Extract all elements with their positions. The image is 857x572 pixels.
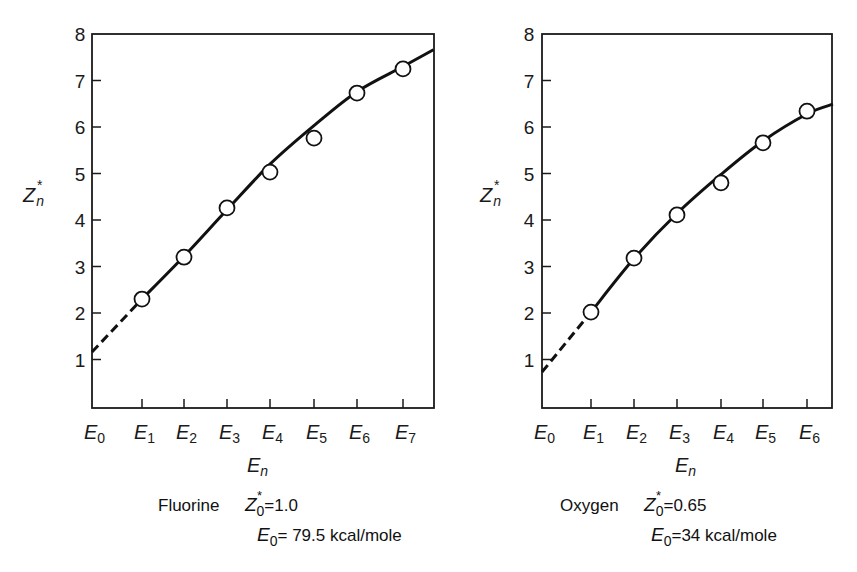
fluorine-caption: Fluorine Z*0 =1.0 — [158, 494, 298, 516]
y-tick-label: 3 — [75, 257, 86, 278]
data-point — [756, 135, 771, 150]
y-axis-asterisk: * — [37, 177, 43, 193]
x-tick-label: E4 — [713, 421, 734, 446]
y-tick-label: 7 — [524, 71, 535, 92]
extrapolation-line — [92, 299, 142, 352]
x-tick-label: E4 — [262, 421, 283, 446]
x-tick-label: E5 — [306, 421, 327, 446]
y-tick-label: 1 — [75, 350, 86, 371]
y-tick-label: 8 — [75, 24, 86, 45]
y-tick-label: 5 — [75, 164, 86, 185]
fluorine-chart: 12345678E0E1E2E3E4E5E6E7EnZn* — [22, 24, 434, 479]
x-tick-label: E2 — [176, 421, 197, 446]
y-tick-label: 7 — [75, 71, 86, 92]
data-point — [350, 86, 365, 101]
data-point — [627, 251, 642, 266]
x-tick-label: E1 — [134, 421, 155, 446]
oxygen-caption: Oxygen Z*0 =0.65 — [560, 494, 706, 516]
oxygen-chart: 12345678E0E1E2E3E4E5E6EnZn* — [479, 24, 833, 479]
x-tick-label: E3 — [669, 421, 690, 446]
oxygen-z0-label: Z*0 — [644, 494, 663, 516]
data-point — [177, 250, 192, 265]
oxygen-element-name: Oxygen — [560, 496, 619, 515]
oxygen-e0-caption: E0 =34 kcal/mole — [651, 524, 777, 546]
fluorine-z0-label: Z*0 — [245, 494, 264, 516]
x-tick-label: E0 — [534, 421, 555, 446]
y-tick-label: 4 — [524, 210, 535, 231]
x-tick-label: E3 — [219, 421, 240, 446]
oxygen-e0-value: =34 kcal/mole — [671, 526, 776, 545]
oxygen-z0-value: =0.65 — [663, 496, 706, 515]
extrapolation-line — [542, 312, 591, 372]
y-tick-label: 6 — [524, 117, 535, 138]
y-tick-label: 6 — [75, 117, 86, 138]
fluorine-e0-caption: E0 = 79.5 kcal/mole — [257, 524, 402, 546]
data-point — [584, 305, 599, 320]
data-point — [307, 131, 322, 146]
y-tick-label: 1 — [524, 350, 535, 371]
x-tick-label: E2 — [626, 421, 647, 446]
x-tick-label: E6 — [349, 421, 370, 446]
plot-frame — [92, 34, 434, 408]
fluorine-z0-value: =1.0 — [264, 496, 298, 515]
y-tick-label: 2 — [75, 303, 86, 324]
fit-curve — [591, 104, 833, 312]
x-tick-label: E5 — [755, 421, 776, 446]
data-point — [263, 165, 278, 180]
data-point — [220, 200, 235, 215]
x-tick-label: E0 — [84, 421, 105, 446]
y-axis-asterisk: * — [494, 177, 500, 193]
y-tick-label: 5 — [524, 164, 535, 185]
chart-canvas: 12345678E0E1E2E3E4E5E6E7EnZn* 12345678E0… — [0, 0, 857, 572]
x-axis-label: En — [247, 454, 268, 479]
y-tick-label: 8 — [524, 24, 535, 45]
oxygen-e0-label: E0 — [651, 524, 671, 546]
y-tick-label: 4 — [75, 210, 86, 231]
data-point — [800, 104, 815, 119]
y-tick-label: 3 — [524, 257, 535, 278]
x-tick-label: E1 — [583, 421, 604, 446]
y-tick-label: 2 — [524, 303, 535, 324]
x-tick-label: E7 — [395, 421, 416, 446]
x-axis-label: En — [675, 454, 696, 479]
data-point — [135, 292, 150, 307]
x-tick-label: E6 — [799, 421, 820, 446]
plot-frame — [542, 34, 832, 408]
data-point — [670, 207, 685, 222]
fluorine-e0-value: = 79.5 kcal/mole — [277, 526, 401, 545]
fluorine-element-name: Fluorine — [158, 496, 219, 515]
data-point — [714, 175, 729, 190]
data-point — [396, 61, 411, 76]
fluorine-e0-label: E0 — [257, 524, 277, 546]
